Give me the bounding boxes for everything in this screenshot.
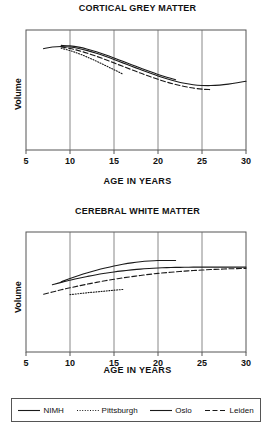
legend-item-oslo: Oslo [150, 406, 191, 415]
x-tick-label-10: 10 [58, 156, 82, 166]
legend-label-leiden: Leiden [230, 406, 254, 415]
chart-panel-cortical-grey-matter: CORTICAL GREY MATTER Volume AGE IN YEARS… [0, 0, 275, 203]
x-tick-label-25: 25 [190, 358, 214, 368]
legend-label-pittsburgh: Pittsburgh [102, 406, 138, 415]
plot-frame [26, 30, 246, 150]
figure-brain-volume-trajectories: CORTICAL GREY MATTER Volume AGE IN YEARS… [0, 0, 275, 432]
legend-swatch-pittsburgh [77, 406, 99, 415]
x-tick-label-15: 15 [102, 156, 126, 166]
series-line-leiden [44, 268, 246, 294]
chart-legend: NIMHPittsburghOsloLeiden [11, 398, 261, 422]
plot-area-cortical-grey-matter [0, 0, 275, 203]
legend-label-nimh: NIMH [43, 406, 63, 415]
x-tick-label-30: 30 [234, 358, 258, 368]
x-tick-label-10: 10 [58, 358, 82, 368]
legend-swatch-nimh [18, 406, 40, 415]
legend-swatch-oslo [150, 406, 172, 415]
x-tick-label-30: 30 [234, 156, 258, 166]
legend-item-leiden: Leiden [205, 406, 254, 415]
chart-panel-cerebral-white-matter: CEREBRAL WHITE MATTER Volume AGE IN YEAR… [0, 203, 275, 389]
x-tick-label-15: 15 [102, 358, 126, 368]
x-tick-label-25: 25 [190, 156, 214, 166]
x-tick-label-5: 5 [14, 156, 38, 166]
legend-item-pittsburgh: Pittsburgh [77, 406, 138, 415]
legend-item-nimh: NIMH [18, 406, 63, 415]
series-line-pittsburgh [70, 289, 123, 294]
legend-swatch-leiden [205, 406, 227, 415]
x-tick-label-20: 20 [146, 358, 170, 368]
x-axis-label-grey: AGE IN YEARS [0, 176, 275, 186]
x-tick-label-20: 20 [146, 156, 170, 166]
x-tick-label-5: 5 [14, 358, 38, 368]
plot-frame [26, 232, 246, 352]
legend-label-oslo: Oslo [175, 406, 191, 415]
